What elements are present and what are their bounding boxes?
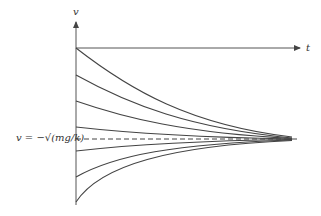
y-axis-label: v xyxy=(73,6,79,17)
x-axis-label: t xyxy=(306,42,310,53)
solution-curves xyxy=(76,48,292,202)
asymptote-label: v = −√(mg/k) xyxy=(16,132,84,143)
velocity-diagram xyxy=(0,0,321,216)
